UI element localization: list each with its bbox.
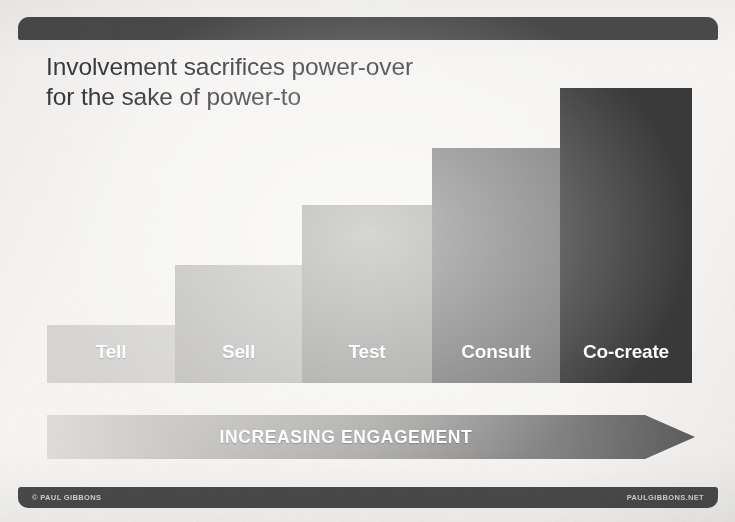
slide-canvas: Involvement sacrifices power-over for th…: [0, 0, 735, 522]
bar-label-co-create: Co-create: [560, 341, 692, 363]
footer-copyright: © PAUL GIBBONS: [32, 493, 101, 502]
title-line-1: Involvement sacrifices power-over: [46, 52, 486, 82]
increasing-engagement-arrow: INCREASING ENGAGEMENT: [47, 411, 695, 463]
title-line-2: for the sake of power-to: [46, 82, 486, 112]
bar-tell: Tell: [47, 325, 175, 383]
bar-sell: Sell: [175, 265, 302, 383]
bar-test: Test: [302, 205, 432, 383]
bar-label-consult: Consult: [432, 341, 560, 363]
footer-bar: © PAUL GIBBONS PAULGIBBONS.NET: [18, 487, 718, 508]
footer-website: PAULGIBBONS.NET: [627, 493, 704, 502]
bar-label-sell: Sell: [175, 341, 302, 363]
page-title: Involvement sacrifices power-over for th…: [46, 52, 486, 112]
bar-label-tell: Tell: [47, 341, 175, 363]
bar-consult: Consult: [432, 148, 560, 383]
bar-label-test: Test: [302, 341, 432, 363]
bar-co-create: Co-create: [560, 88, 692, 383]
arrow-label: INCREASING ENGAGEMENT: [47, 411, 645, 463]
